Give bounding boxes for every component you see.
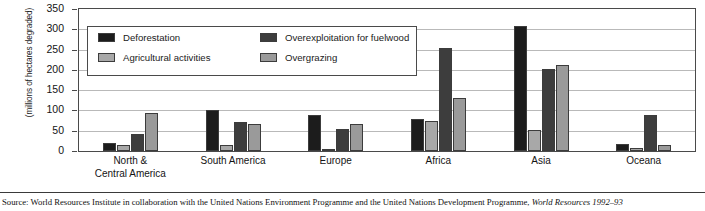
bar <box>322 149 335 151</box>
legend-item: Overgrazing <box>260 53 337 63</box>
legend-swatch-icon <box>98 33 115 42</box>
bar <box>556 65 569 151</box>
bar <box>117 145 130 151</box>
y-tick-label: 350 <box>30 3 64 14</box>
chart-legend: DeforestationAgricultural activitiesOver… <box>87 26 417 76</box>
x-axis-label-line: Oceana <box>584 155 704 168</box>
legend-swatch-icon <box>98 53 115 62</box>
bar <box>514 26 527 151</box>
y-tick-mark <box>72 9 77 10</box>
x-axis-labels: North &Central AmericaSouth AmericaEurop… <box>79 155 695 189</box>
source-text: Source: World Resources Institute in col… <box>2 197 532 207</box>
y-tick-label: 0 <box>30 145 64 156</box>
y-tick-mark <box>72 131 77 132</box>
source-note: Source: World Resources Institute in col… <box>2 197 703 208</box>
legend-swatch-icon <box>260 33 277 42</box>
bar <box>439 48 452 151</box>
y-tick-mark <box>72 50 77 51</box>
bar <box>336 129 349 151</box>
bar <box>350 124 363 151</box>
legend-item: Overexploitation for fuelwood <box>260 33 409 43</box>
legend-item: Deforestation <box>98 33 180 43</box>
bar <box>630 148 643 151</box>
chart-figure: (millions of hectares degraded) 05010015… <box>0 0 705 211</box>
source-title: World Resources 1992–93 <box>532 197 623 207</box>
bar-group <box>411 9 466 151</box>
bar <box>425 121 438 151</box>
y-tick-mark <box>72 70 77 71</box>
bar <box>644 115 657 152</box>
y-tick-label: 200 <box>30 64 64 75</box>
bar <box>411 119 424 151</box>
legend-label: Overexploitation for fuelwood <box>285 33 409 43</box>
bar <box>206 110 219 151</box>
x-axis-label: Oceana <box>584 155 704 168</box>
legend-label: Overgrazing <box>285 53 337 63</box>
legend-swatch-icon <box>260 53 277 62</box>
y-tick-label: 150 <box>30 84 64 95</box>
bar <box>131 134 144 151</box>
x-axis-label-line: Central America <box>70 168 190 181</box>
bar-group <box>514 9 569 151</box>
y-tick-mark <box>72 90 77 91</box>
y-tick-label: 250 <box>30 44 64 55</box>
legend-item: Agricultural activities <box>98 53 210 63</box>
y-tick-label: 50 <box>30 125 64 136</box>
y-tick-mark <box>72 110 77 111</box>
bar <box>220 145 233 151</box>
bar <box>542 69 555 151</box>
bar <box>103 143 116 151</box>
bar <box>145 113 158 151</box>
bar <box>248 124 261 151</box>
bar <box>453 98 466 151</box>
source-divider <box>0 192 705 193</box>
bar <box>308 115 321 151</box>
y-tick-mark <box>72 151 77 152</box>
y-tick-mark <box>72 29 77 30</box>
bar <box>658 145 671 151</box>
y-tick-label: 100 <box>30 104 64 115</box>
bar-group <box>616 9 671 151</box>
legend-label: Agricultural activities <box>123 53 210 63</box>
bar <box>528 130 541 151</box>
bar <box>616 144 629 151</box>
bar <box>234 122 247 151</box>
legend-label: Deforestation <box>123 33 180 43</box>
y-tick-label: 300 <box>30 23 64 34</box>
